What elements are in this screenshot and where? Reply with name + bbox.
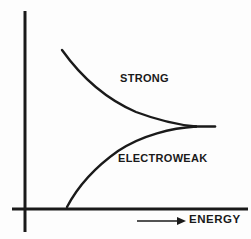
coupling-unification-figure: STRONG ELECTROWEAK ENERGY — [0, 0, 251, 239]
electroweak-curve-label: ELECTROWEAK — [118, 153, 207, 164]
energy-direction-arrow-head — [177, 217, 186, 225]
energy-axis-label: ENERGY — [189, 214, 241, 226]
electroweak-coupling-curve — [67, 127, 196, 208]
figure-canvas — [0, 0, 251, 239]
strong-curve-label: STRONG — [120, 73, 169, 84]
strong-coupling-curve — [62, 50, 196, 127]
